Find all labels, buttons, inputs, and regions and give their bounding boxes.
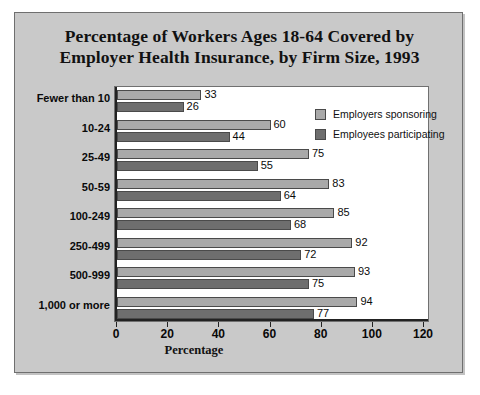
bar-value-label: 55 bbox=[261, 160, 273, 171]
category-label: 1,000 or more bbox=[14, 299, 110, 311]
legend-label: Employees participating bbox=[333, 128, 444, 140]
bar-group: 9272 bbox=[115, 236, 428, 266]
bar-sponsor bbox=[117, 238, 352, 248]
bar-participate bbox=[117, 102, 184, 112]
bar-sponsor bbox=[117, 90, 201, 100]
category-label: 500-999 bbox=[14, 269, 110, 281]
bar-group: 9375 bbox=[115, 265, 428, 295]
chart-title-line-1: Percentage of Workers Ages 18-64 Covered… bbox=[27, 26, 452, 47]
bar-participate bbox=[117, 250, 301, 260]
bar-participate bbox=[117, 220, 291, 230]
chart-plate: Percentage of Workers Ages 18-64 Covered… bbox=[14, 12, 463, 373]
bar-group: 9477 bbox=[115, 295, 428, 325]
category-label: 250-499 bbox=[14, 240, 110, 252]
bar-value-label: 26 bbox=[187, 101, 199, 112]
value-axis-ticks: 020406080100120 bbox=[114, 322, 431, 344]
bar-value-label: 93 bbox=[358, 266, 370, 277]
bar-value-label: 94 bbox=[360, 296, 372, 307]
legend-item: Employers sponsoring bbox=[315, 107, 475, 124]
category-label: 50-59 bbox=[14, 181, 110, 193]
legend-label: Employers sponsoring bbox=[333, 108, 437, 120]
bar-value-label: 64 bbox=[284, 190, 296, 201]
bar-sponsor bbox=[117, 179, 329, 189]
tick-label: 100 bbox=[362, 327, 382, 341]
tick-label: 0 bbox=[113, 327, 120, 341]
tick-label: 40 bbox=[212, 327, 225, 341]
chart-legend: Employers sponsoringEmployees participat… bbox=[315, 107, 475, 147]
bar-participate bbox=[117, 279, 309, 289]
bar-value-label: 92 bbox=[355, 237, 367, 248]
legend-item: Employees participating bbox=[315, 127, 475, 144]
bar-value-label: 85 bbox=[337, 207, 349, 218]
bar-value-label: 44 bbox=[233, 131, 245, 142]
bar-value-label: 72 bbox=[304, 249, 316, 260]
bar-value-label: 75 bbox=[312, 148, 324, 159]
category-axis-labels: Fewer than 1010-2425-4950-59100-249250-4… bbox=[15, 86, 110, 322]
tick-label: 120 bbox=[413, 327, 433, 341]
tick-label: 20 bbox=[160, 327, 173, 341]
x-axis-title: Percentage bbox=[114, 343, 274, 358]
tick-label: 60 bbox=[263, 327, 276, 341]
chart-figure: Percentage of Workers Ages 18-64 Covered… bbox=[0, 0, 480, 395]
category-label: 10-24 bbox=[14, 122, 110, 134]
chart-title: Percentage of Workers Ages 18-64 Covered… bbox=[27, 26, 452, 68]
legend-swatch bbox=[315, 109, 326, 120]
tick-label: 80 bbox=[314, 327, 327, 341]
category-label: 25-49 bbox=[14, 151, 110, 163]
bar-participate bbox=[117, 161, 258, 171]
bar-participate bbox=[117, 132, 230, 142]
bar-sponsor bbox=[117, 297, 357, 307]
bar-value-label: 77 bbox=[317, 308, 329, 319]
bar-sponsor bbox=[117, 120, 271, 130]
bar-participate bbox=[117, 191, 281, 201]
bar-sponsor bbox=[117, 208, 334, 218]
bar-value-label: 33 bbox=[204, 89, 216, 100]
plot-area: 33266044755583648568927293759477 Employe… bbox=[114, 86, 429, 322]
bar-value-label: 68 bbox=[294, 219, 306, 230]
bar-value-label: 75 bbox=[312, 278, 324, 289]
bar-group: 7555 bbox=[115, 147, 428, 177]
bar-participate bbox=[117, 309, 314, 319]
chart-title-line-2: Employer Health Insurance, by Firm Size,… bbox=[27, 47, 452, 68]
legend-swatch bbox=[315, 129, 326, 140]
category-label: Fewer than 10 bbox=[14, 92, 110, 104]
category-label: 100-249 bbox=[14, 210, 110, 222]
bar-value-label: 60 bbox=[274, 119, 286, 130]
bar-group: 8568 bbox=[115, 206, 428, 236]
bar-group: 8364 bbox=[115, 177, 428, 207]
bar-sponsor bbox=[117, 149, 309, 159]
bar-sponsor bbox=[117, 267, 355, 277]
bar-value-label: 83 bbox=[332, 178, 344, 189]
